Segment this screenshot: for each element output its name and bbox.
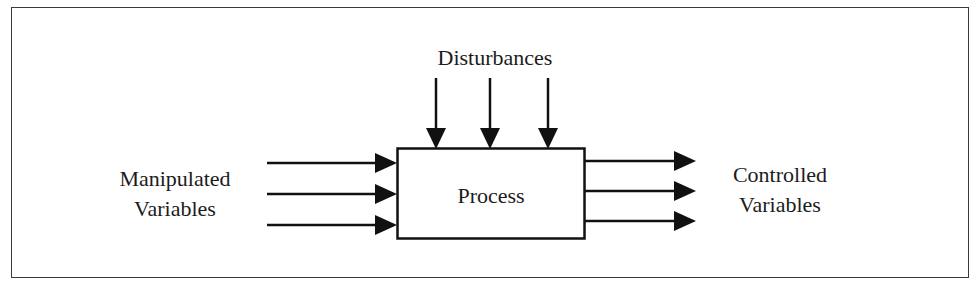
disturbance-arrows	[426, 78, 558, 149]
process-label: Process	[397, 181, 585, 211]
disturbance-arrow-3	[538, 78, 558, 149]
input-arrow-3	[267, 215, 397, 235]
output-arrow-2	[585, 181, 696, 201]
arrowhead-down-icon	[426, 128, 446, 149]
manipulated-variables-line-1: Manipulated	[85, 164, 265, 194]
output-arrow-1	[585, 151, 696, 171]
arrowhead-right-icon	[375, 153, 397, 173]
manipulated-variables-line-2: Variables	[85, 194, 265, 224]
manipulated-variables-label: Manipulated Variables	[85, 164, 265, 224]
output-arrows	[585, 151, 696, 231]
arrowhead-right-icon	[375, 184, 397, 204]
controlled-variables-label: Controlled Variables	[690, 160, 870, 220]
input-arrows	[267, 153, 397, 235]
controlled-variables-line-2: Variables	[690, 190, 870, 220]
arrowhead-down-icon	[538, 128, 558, 149]
controlled-variables-line-1: Controlled	[690, 160, 870, 190]
input-arrow-2	[267, 184, 397, 204]
arrowhead-down-icon	[480, 128, 500, 149]
input-arrow-1	[267, 153, 397, 173]
disturbance-arrow-1	[426, 78, 446, 149]
disturbance-arrow-2	[480, 78, 500, 149]
output-arrow-3	[585, 211, 696, 231]
arrowhead-right-icon	[375, 215, 397, 235]
disturbances-label: Disturbances	[395, 43, 595, 73]
